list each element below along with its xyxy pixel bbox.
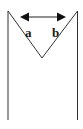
label-b: b xyxy=(52,26,59,39)
label-a: a xyxy=(25,26,32,39)
v-shape xyxy=(8,11,78,58)
double-headed-arrow xyxy=(20,13,66,22)
diagram-canvas xyxy=(0,0,83,129)
arrowhead-left-icon xyxy=(20,13,29,22)
v-diagram: a b xyxy=(0,0,83,129)
arrowhead-right-icon xyxy=(57,13,66,22)
